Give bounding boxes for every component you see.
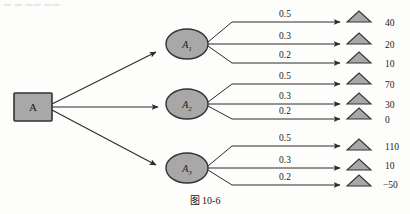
terminal-triangle-icon <box>347 52 371 63</box>
figure-page: ▬ ▬ ▬▬ ▬▬ A A1 A2 <box>0 0 410 214</box>
branch-A2-outcome-1-probability: 0.5 <box>279 71 291 81</box>
root-node-A[interactable]: A <box>14 93 52 121</box>
figure-caption: 图 10-6 <box>0 192 410 207</box>
root-branch-arrows <box>52 52 158 165</box>
root-arrow-to-A3 <box>52 110 156 165</box>
terminal-triangle-icon <box>347 159 371 170</box>
payoff-A1-outcome-2: 20 <box>385 40 395 50</box>
terminal-triangle-icon <box>347 73 371 84</box>
decision-tree-diagram: A A1 A2 A3 0.5 0.3 0.2 <box>0 0 410 214</box>
terminal-triangle-icon <box>347 93 371 104</box>
root-node-label: A <box>29 101 37 113</box>
payoff-A1-outcome-3: 10 <box>385 59 395 69</box>
terminal-A1-outcome-2: 20 <box>347 33 395 50</box>
terminal-A1-outcome-1: 40 <box>347 11 395 28</box>
root-arrow-to-A1 <box>52 52 156 104</box>
branch-group-A2 <box>208 84 340 119</box>
payoff-A3-outcome-1: 110 <box>385 142 399 152</box>
terminal-A2-outcome-3: 0 <box>347 108 390 125</box>
branch-A1-outcome-3-probability: 0.2 <box>279 50 291 60</box>
branch-A1-outcome-3-line <box>208 46 340 63</box>
decision-node-A3[interactable]: A3 <box>166 153 208 183</box>
terminal-A2-outcome-1: 70 <box>347 73 395 90</box>
terminal-A3-outcome-1: 110 <box>347 139 399 152</box>
branch-A3-outcome-3-probability: 0.2 <box>279 172 291 182</box>
branch-group-A3 <box>208 146 340 185</box>
terminal-A1-outcome-3: 10 <box>347 52 395 69</box>
branch-A3-outcome-3-line <box>208 170 340 185</box>
branch-A3-outcome-2-probability: 0.3 <box>279 155 291 165</box>
branch-A3-outcome-1-probability: 0.5 <box>279 133 291 143</box>
payoff-A2-outcome-3: 0 <box>385 115 390 125</box>
terminal-A3-outcome-3: −50 <box>347 175 398 190</box>
branch-group-A1 <box>208 22 340 63</box>
terminal-triangle-icon <box>347 108 371 119</box>
payoff-A2-outcome-2: 30 <box>385 100 395 110</box>
payoff-A1-outcome-1: 40 <box>385 18 395 28</box>
decision-node-A1[interactable]: A1 <box>166 29 208 59</box>
terminal-A3-outcome-2: 10 <box>347 159 395 171</box>
branch-A2-outcome-2-probability: 0.3 <box>279 91 291 101</box>
terminal-triangle-icon <box>347 11 371 22</box>
decision-node-A2[interactable]: A2 <box>166 89 208 119</box>
branch-A1-outcome-2-probability: 0.3 <box>279 31 291 41</box>
payoff-A3-outcome-3: −50 <box>383 180 398 190</box>
payoff-A3-outcome-2: 10 <box>385 161 395 171</box>
branch-A1-outcome-1-line <box>208 22 340 42</box>
terminal-A2-outcome-2: 30 <box>347 93 395 110</box>
branch-A1-outcome-1-probability: 0.5 <box>279 9 291 19</box>
payoff-A2-outcome-1: 70 <box>385 80 395 90</box>
terminal-triangle-icon <box>347 139 371 150</box>
branch-A2-outcome-3-probability: 0.2 <box>279 106 291 116</box>
terminal-triangle-icon <box>347 175 371 186</box>
branch-A2-outcome-1-line <box>208 84 340 102</box>
terminal-triangle-icon <box>347 33 371 44</box>
branch-A3-outcome-1-line <box>208 146 340 166</box>
branch-A2-outcome-3-line <box>208 106 340 119</box>
